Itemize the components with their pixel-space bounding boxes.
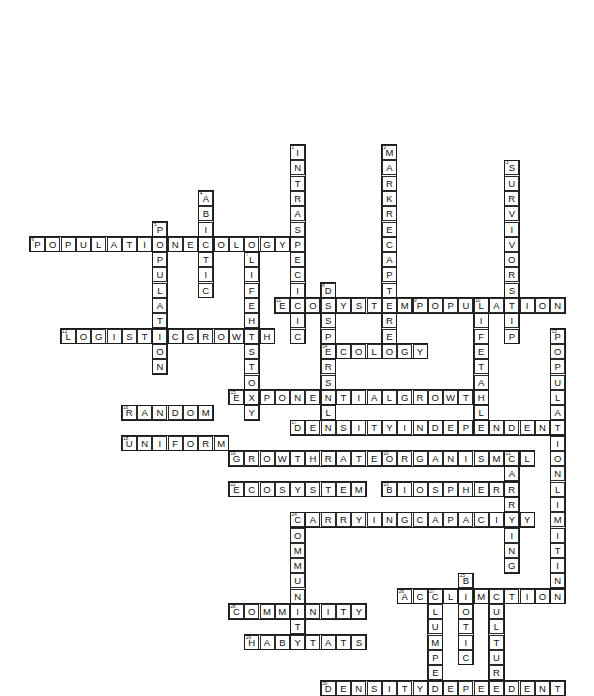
crossword-cell[interactable]: R [489, 665, 504, 680]
crossword-cell[interactable]: T [336, 635, 351, 650]
crossword-cell[interactable]: 5P [152, 222, 167, 237]
crossword-cell[interactable]: U [152, 267, 167, 282]
crossword-cell[interactable]: L [229, 237, 244, 252]
crossword-cell[interactable]: E [290, 252, 305, 267]
crossword-cell[interactable]: T [489, 635, 504, 650]
crossword-cell[interactable]: S [305, 482, 320, 497]
crossword-cell[interactable]: N [550, 573, 565, 588]
crossword-cell[interactable]: S [244, 344, 259, 359]
crossword-cell[interactable]: P [61, 237, 76, 252]
crossword-cell[interactable]: T [198, 252, 213, 267]
crossword-cell[interactable]: Y [290, 482, 305, 497]
crossword-cell[interactable]: E [474, 344, 489, 359]
crossword-cell[interactable]: E [183, 237, 198, 252]
crossword-cell[interactable]: L [428, 604, 443, 619]
crossword-cell[interactable]: O [351, 344, 366, 359]
crossword-cell[interactable]: H [458, 482, 473, 497]
crossword-cell[interactable]: E [382, 222, 397, 237]
crossword-cell[interactable]: 27C [428, 589, 443, 604]
crossword-cell[interactable]: N [290, 589, 305, 604]
crossword-cell[interactable]: O [244, 604, 259, 619]
crossword-cell[interactable]: I [458, 635, 473, 650]
crossword-cell[interactable]: N [137, 436, 152, 451]
crossword-cell[interactable]: O [183, 405, 198, 420]
crossword-cell[interactable]: S [351, 298, 366, 313]
crossword-cell[interactable]: T [550, 681, 565, 696]
crossword-cell[interactable]: S [474, 451, 489, 466]
crossword-cell[interactable]: Y [520, 512, 535, 527]
crossword-cell[interactable]: O [152, 237, 167, 252]
crossword-cell[interactable]: O [535, 298, 550, 313]
crossword-cell[interactable]: C [290, 329, 305, 344]
crossword-cell[interactable]: 26A [397, 589, 412, 604]
crossword-cell[interactable]: E [520, 681, 535, 696]
crossword-cell[interactable]: 10L [474, 298, 489, 313]
crossword-cell[interactable]: O [428, 390, 443, 405]
crossword-cell[interactable]: E [474, 420, 489, 435]
crossword-cell[interactable]: 17D [290, 420, 305, 435]
crossword-cell[interactable]: A [428, 451, 443, 466]
crossword-cell[interactable]: B [198, 206, 213, 221]
crossword-cell[interactable]: M [351, 482, 366, 497]
crossword-cell[interactable]: U [504, 176, 519, 191]
crossword-cell[interactable]: T [351, 451, 366, 466]
crossword-cell[interactable]: K [382, 191, 397, 206]
crossword-cell[interactable]: O [244, 237, 259, 252]
crossword-cell[interactable]: O [550, 451, 565, 466]
crossword-cell[interactable]: E [336, 681, 351, 696]
crossword-cell[interactable]: N [550, 466, 565, 481]
crossword-cell[interactable]: R [504, 267, 519, 282]
crossword-cell[interactable]: I [367, 512, 382, 527]
crossword-cell[interactable]: T [244, 329, 259, 344]
crossword-cell[interactable]: 13P [550, 329, 565, 344]
crossword-cell[interactable]: O [260, 451, 275, 466]
crossword-cell[interactable]: P [458, 681, 473, 696]
crossword-cell[interactable]: A [428, 512, 443, 527]
crossword-cell[interactable]: A [152, 298, 167, 313]
crossword-cell[interactable]: S [428, 482, 443, 497]
crossword-cell[interactable]: T [382, 283, 397, 298]
crossword-cell[interactable]: S [122, 329, 137, 344]
crossword-cell[interactable]: O [382, 344, 397, 359]
crossword-cell[interactable]: R [382, 176, 397, 191]
crossword-cell[interactable]: I [351, 390, 366, 405]
crossword-cell[interactable]: T [290, 619, 305, 634]
crossword-cell[interactable]: O [214, 329, 229, 344]
crossword-cell[interactable]: R [413, 390, 428, 405]
crossword-cell[interactable]: I [550, 436, 565, 451]
crossword-cell[interactable]: L [367, 344, 382, 359]
crossword-cell[interactable]: U [76, 237, 91, 252]
crossword-cell[interactable]: P [504, 329, 519, 344]
crossword-cell[interactable]: A [382, 252, 397, 267]
crossword-cell[interactable]: M [198, 405, 213, 420]
crossword-cell[interactable]: U [550, 375, 565, 390]
crossword-cell[interactable]: I [520, 589, 535, 604]
crossword-cell[interactable]: S [321, 298, 336, 313]
crossword-cell[interactable]: 4A [198, 191, 213, 206]
crossword-cell[interactable]: T [367, 298, 382, 313]
crossword-cell[interactable]: N [413, 420, 428, 435]
crossword-cell[interactable]: M [550, 512, 565, 527]
crossword-cell[interactable]: N [535, 420, 550, 435]
crossword-cell[interactable]: M [397, 298, 412, 313]
crossword-cell[interactable]: R [290, 191, 305, 206]
crossword-cell[interactable]: E [367, 451, 382, 466]
crossword-cell[interactable]: I [351, 420, 366, 435]
crossword-cell[interactable]: M [290, 543, 305, 558]
crossword-cell[interactable]: O [260, 482, 275, 497]
crossword-cell[interactable]: P [550, 359, 565, 374]
crossword-cell[interactable]: N [305, 604, 320, 619]
crossword-cell[interactable]: I [198, 222, 213, 237]
crossword-cell[interactable]: A [489, 298, 504, 313]
crossword-cell[interactable]: B [275, 635, 290, 650]
crossword-cell[interactable]: R [489, 482, 504, 497]
crossword-cell[interactable]: A [321, 635, 336, 650]
crossword-cell[interactable]: N [535, 681, 550, 696]
crossword-cell[interactable]: L [489, 619, 504, 634]
crossword-cell[interactable]: S [351, 635, 366, 650]
crossword-cell[interactable]: 3S [504, 160, 519, 175]
crossword-cell[interactable]: C [474, 512, 489, 527]
crossword-cell[interactable]: O [413, 482, 428, 497]
crossword-cell[interactable]: E [244, 298, 259, 313]
crossword-cell[interactable]: I [290, 604, 305, 619]
